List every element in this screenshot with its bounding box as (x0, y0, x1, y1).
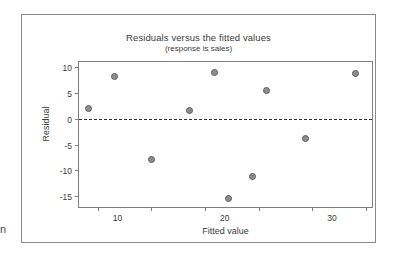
x-tick: 10 (98, 207, 99, 211)
x-tick-label: 10 (113, 213, 122, 223)
scatter-point (263, 87, 270, 94)
scatter-point (111, 73, 118, 80)
y-tick-label: -15 (60, 192, 72, 202)
x-tick: 60 (366, 207, 367, 211)
x-tick: 20 (151, 207, 152, 211)
y-axis-label: Residual (41, 94, 51, 154)
y-tick-label: 0 (67, 115, 72, 125)
figure-card: Residuals versus the fitted values (resp… (21, 14, 376, 243)
x-tick: 30 (205, 207, 206, 211)
zero-reference-line (79, 119, 372, 120)
x-tick: 40 (259, 207, 260, 211)
chart-subtitle: (response is sales) (22, 44, 375, 53)
y-tick-label: 10 (63, 63, 72, 73)
y-tick-label: -10 (60, 166, 72, 176)
scatter-point (225, 195, 232, 202)
x-axis-label: Fitted value (78, 226, 373, 236)
page-margin-text-fragment: n (0, 222, 14, 236)
y-tick: 10 (75, 67, 79, 68)
y-tick: -5 (75, 145, 79, 146)
scatter-point (186, 107, 193, 114)
y-tick: -15 (75, 196, 79, 197)
y-tick: -10 (75, 170, 79, 171)
scatter-point (211, 69, 218, 76)
x-tick-label: 20 (220, 213, 229, 223)
scatter-point (352, 70, 359, 77)
y-tick-label: 5 (67, 89, 72, 99)
x-tick: 50 (312, 207, 313, 211)
scatter-point (249, 173, 256, 180)
y-tick: 5 (75, 93, 79, 94)
plot-area: 102030405060 1050-5-10-15 (78, 61, 373, 208)
x-tick-label: 30 (327, 213, 336, 223)
scatter-point (302, 135, 309, 142)
scatter-point (85, 105, 92, 112)
chart-title: Residuals versus the fitted values (22, 32, 375, 43)
y-tick: 0 (75, 119, 79, 120)
scatter-point (148, 156, 155, 163)
y-tick-label: -5 (64, 141, 72, 151)
